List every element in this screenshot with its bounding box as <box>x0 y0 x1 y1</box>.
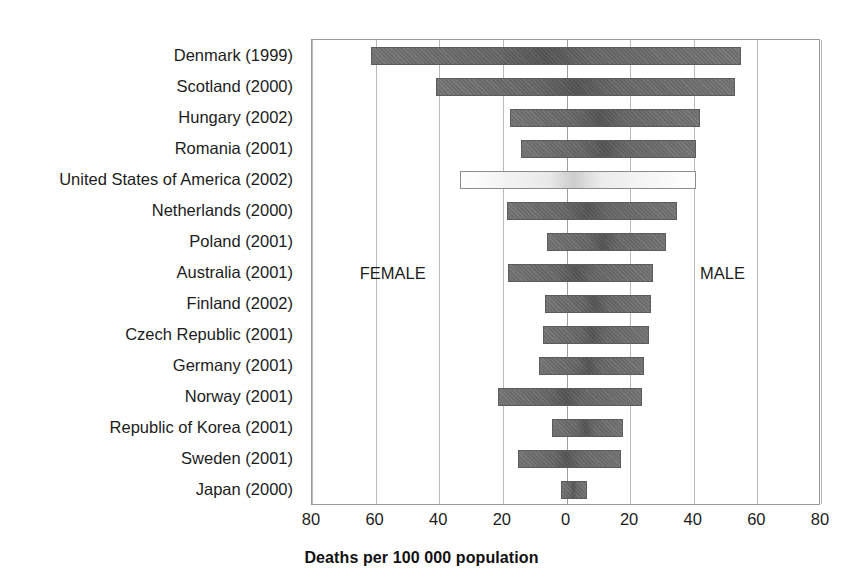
category-label: Romania (2001) <box>0 140 303 157</box>
bar <box>547 233 666 251</box>
male-side-label: MALE <box>700 265 745 282</box>
bar <box>561 481 587 499</box>
category-label: Australia (2001) <box>0 264 303 281</box>
category-label: Finland (2002) <box>0 295 303 312</box>
x-tick-label: 60 <box>747 511 765 528</box>
category-label: Denmark (1999) <box>0 47 303 64</box>
bar <box>543 326 649 344</box>
gridline-20-female <box>503 40 504 504</box>
x-tick-label: 20 <box>493 511 511 528</box>
female-side-label: FEMALE <box>360 265 426 282</box>
x-tick-label: 20 <box>620 511 638 528</box>
x-tick-label: 0 <box>561 511 570 528</box>
bar <box>498 388 642 406</box>
plot-area: FEMALE MALE <box>311 39 820 505</box>
diverging-bar-chart: Denmark (1999)Scotland (2000)Hungary (20… <box>0 0 843 587</box>
category-label: Republic of Korea (2001) <box>0 419 303 436</box>
x-tick-label: 60 <box>365 511 383 528</box>
bar <box>518 450 621 468</box>
x-axis-tick-labels: 80604020020406080 <box>311 505 820 535</box>
gridline-60-male <box>757 40 758 504</box>
category-label: Poland (2001) <box>0 233 303 250</box>
bar <box>545 295 652 313</box>
x-axis-title: Deaths per 100 000 population <box>0 549 843 567</box>
gridline-80-male <box>821 40 822 504</box>
gridline-40-female <box>439 40 440 504</box>
gridline-80-female <box>312 40 313 504</box>
bar <box>507 202 677 220</box>
x-tick-label: 80 <box>302 511 320 528</box>
category-label: Japan (2000) <box>0 481 303 498</box>
category-label: Hungary (2002) <box>0 109 303 126</box>
bar <box>371 47 741 65</box>
bar <box>552 419 624 437</box>
bar <box>521 140 696 158</box>
bar <box>508 264 653 282</box>
category-label: Germany (2001) <box>0 357 303 374</box>
category-label: Norway (2001) <box>0 388 303 405</box>
bar <box>539 357 645 375</box>
category-label: Czech Republic (2001) <box>0 326 303 343</box>
category-label-column: Denmark (1999)Scotland (2000)Hungary (20… <box>0 39 303 505</box>
category-label: Sweden (2001) <box>0 450 303 467</box>
x-tick-label: 80 <box>811 511 829 528</box>
x-tick-label: 40 <box>429 511 447 528</box>
category-label: United States of America (2002) <box>0 171 303 188</box>
bar <box>436 78 735 96</box>
x-tick-label: 40 <box>684 511 702 528</box>
category-label: Netherlands (2000) <box>0 202 303 219</box>
bar-highlighted <box>460 171 696 189</box>
bar <box>510 109 700 127</box>
category-label: Scotland (2000) <box>0 78 303 95</box>
